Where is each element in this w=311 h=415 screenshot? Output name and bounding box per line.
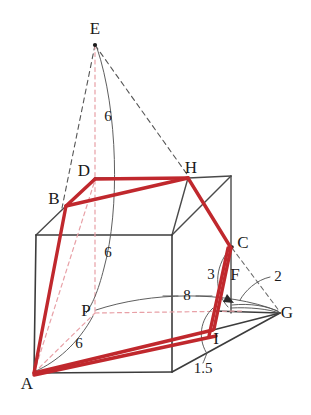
label-A: A xyxy=(21,374,34,393)
measure-label-p-g-8: 8 xyxy=(183,287,191,303)
cube-back-edges xyxy=(36,176,231,313)
label-F: F xyxy=(230,265,239,284)
edge-I-G-floor xyxy=(213,313,280,330)
label-G: G xyxy=(281,303,293,322)
measure-label-e-p-6: 6 xyxy=(104,108,112,124)
label-H: H xyxy=(185,158,197,177)
measure-label-group: 6 6 6 8 3 2 1.5 xyxy=(75,108,282,376)
vertex-label-group: E D H B C F G P I A xyxy=(21,19,293,393)
label-E: E xyxy=(90,19,100,38)
measure-label-c-f-3: 3 xyxy=(207,266,215,282)
label-P: P xyxy=(81,301,90,320)
red-edge-B-H xyxy=(66,178,188,206)
red-edge-D-H xyxy=(95,178,188,179)
geometry-figure: E D H B C F G P I A 6 6 6 8 3 2 1.5 xyxy=(0,0,311,415)
label-C: C xyxy=(237,233,248,252)
leader-label-2 xyxy=(240,277,270,300)
edge-front-left xyxy=(34,235,36,373)
measure-label-f-g-2: 2 xyxy=(274,268,282,284)
red-edge-A-I xyxy=(34,330,213,373)
label-D: D xyxy=(78,161,90,180)
measure-label-a-p-6: 6 xyxy=(75,335,83,351)
measure-label-d-p-6: 6 xyxy=(104,244,112,260)
red-edge-B-A xyxy=(34,206,66,373)
red-edge-C-Ilow xyxy=(209,248,228,336)
label-I: I xyxy=(213,329,219,348)
measure-label-i-g-1p5: 1.5 xyxy=(194,360,213,376)
point-E-dot xyxy=(93,43,97,47)
label-B: B xyxy=(48,189,59,208)
geometry-canvas: E D H B C F G P I A 6 6 6 8 3 2 1.5 xyxy=(0,0,311,415)
